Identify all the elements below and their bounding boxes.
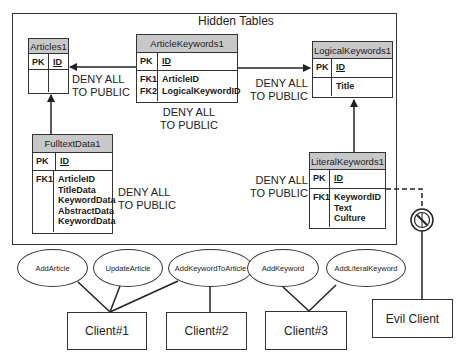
table-header: FulltextData1 (33, 135, 112, 153)
table-articlekeywords: ArticleKeywords1 PK ID FK1FK2 ArticleIDL… (136, 34, 238, 103)
table-header: ArticleKeywords1 (137, 35, 237, 53)
pk-field: ID (158, 53, 171, 70)
pk-field: ID (330, 170, 343, 188)
field-title: Title (332, 78, 354, 96)
procedure-addkeyword: AddKeyword (247, 249, 319, 287)
pk-label: PK (33, 153, 56, 170)
table-header: LogicalKeywords1 (313, 42, 392, 59)
fk-fields: KeywordID Text Culture (330, 189, 381, 227)
pk-label: PK (313, 59, 332, 77)
key-cell (313, 78, 332, 96)
deny-label-literalkeywords: DENY ALLTO PUBLIC (250, 174, 308, 200)
deny-label-articlekeywords: DENY ALLTO PUBLIC (160, 106, 218, 132)
table-fulltextdata: FulltextData1 PK ID FK1 ArticleID TitleD… (32, 134, 113, 234)
client-1: Client#1 (67, 312, 147, 350)
table-logicalkeywords: LogicalKeywords1 PK ID Title (312, 41, 393, 98)
deny-label-fulltextdata: DENY ALLTO PUBLIC (118, 186, 176, 212)
fk-fields: ArticleID TitleData KeywordData Abstract… (54, 171, 116, 232)
frame-title: Hidden Tables (198, 14, 274, 28)
no-access-icon (411, 209, 433, 231)
client-2: Client#2 (166, 312, 247, 350)
procedure-updatearticle: UpdateArticle (93, 249, 163, 287)
procedure-addkeywordtoarticle: AddKeywordToArticle (168, 249, 253, 287)
fk-label: FK1 (33, 171, 54, 232)
pk-label: PK (29, 54, 49, 69)
fk-fields: ArticleIDLogicalKeywordID (158, 71, 241, 101)
pk-field: ID (332, 59, 345, 77)
deny-label-logicalkeywords: DENY ALLTO PUBLIC (250, 77, 308, 103)
field-cell (49, 70, 53, 92)
deny-label-articles: DENY ALLTO PUBLIC (72, 73, 130, 99)
fk-label: FK1 (310, 189, 330, 227)
table-articles: Articles1 PK ID (28, 38, 69, 94)
fk-labels: FK1FK2 (137, 71, 158, 101)
table-header: LiteralKeywords1 (310, 153, 385, 170)
table-header: Articles1 (29, 39, 68, 54)
pk-field: ID (56, 153, 69, 170)
client-3: Client#3 (265, 311, 347, 350)
procedure-addarticle: AddArticle (17, 249, 88, 287)
pk-label: PK (137, 53, 158, 70)
evil-client: Evil Client (372, 299, 453, 338)
procedure-addliteralkeyword: AddLiteralKeyword (326, 249, 406, 287)
table-literalkeywords: LiteralKeywords1 PK ID FK1 KeywordID Tex… (309, 152, 386, 229)
key-cell (29, 70, 49, 92)
pk-label: PK (310, 170, 330, 188)
pk-field: ID (49, 54, 62, 69)
